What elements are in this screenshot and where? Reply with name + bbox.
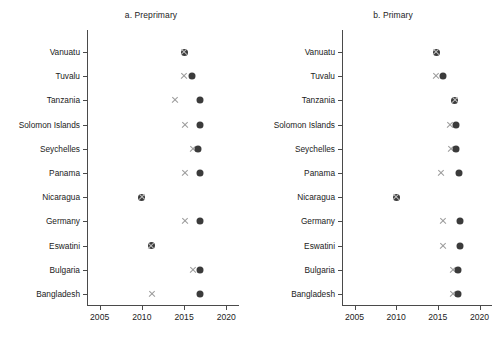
y-axis-tick bbox=[338, 270, 342, 271]
data-point-cross bbox=[138, 193, 146, 201]
x-axis-tick-label: 2015 bbox=[428, 312, 447, 322]
x-axis-tick bbox=[100, 306, 101, 310]
y-axis-category-label: Bulgaria bbox=[305, 265, 335, 275]
plot-area-preprimary: 2005201020152020VanuatuTuvaluTanzaniaSol… bbox=[87, 30, 239, 316]
x-axis-tick-label: 2005 bbox=[345, 312, 364, 322]
x-axis-tick-label: 2010 bbox=[387, 312, 406, 322]
data-point-dot bbox=[188, 73, 195, 80]
y-axis-category-label: Tanzania bbox=[47, 95, 80, 105]
panel-title-b: b. Primary bbox=[247, 10, 495, 20]
y-axis-category-label: Nicaragua bbox=[42, 192, 80, 202]
y-axis-category-label: Vanuatu bbox=[305, 47, 335, 57]
y-axis-category-label: Bangladesh bbox=[36, 289, 80, 299]
x-axis-tick-label: 2020 bbox=[217, 312, 236, 322]
data-point-cross bbox=[181, 217, 189, 225]
y-axis-category-label: Tanzania bbox=[302, 95, 335, 105]
y-axis-tick bbox=[338, 197, 342, 198]
y-axis-tick bbox=[83, 221, 87, 222]
y-axis-tick bbox=[83, 246, 87, 247]
y-axis-tick bbox=[338, 149, 342, 150]
y-axis-tick bbox=[83, 52, 87, 53]
y-axis-category-label: Seychelles bbox=[40, 144, 80, 154]
data-point-dot bbox=[197, 121, 204, 128]
data-point-cross bbox=[392, 193, 400, 201]
data-point-dot bbox=[455, 170, 462, 177]
x-axis-tick-label: 2005 bbox=[90, 312, 109, 322]
panel-title-a: a. Preprimary bbox=[0, 10, 248, 20]
x-axis-tick-label: 2015 bbox=[175, 312, 194, 322]
y-axis-category-label: Germany bbox=[301, 216, 335, 226]
data-point-overlapping bbox=[180, 48, 188, 56]
y-axis-tick bbox=[338, 76, 342, 77]
data-point-dot bbox=[454, 290, 461, 297]
y-axis-category-label: Nicaragua bbox=[297, 192, 335, 202]
x-axis-tick bbox=[396, 306, 397, 310]
y-axis-category-label: Tuvalu bbox=[55, 71, 80, 81]
figure-root: a. Preprimary 2005201020152020VanuatuTuv… bbox=[0, 0, 495, 346]
y-axis-tick bbox=[338, 246, 342, 247]
y-axis-tick bbox=[338, 52, 342, 53]
y-axis-tick bbox=[338, 294, 342, 295]
data-point-overlapping bbox=[451, 96, 459, 104]
x-axis-tick-label: 2010 bbox=[132, 312, 151, 322]
y-axis-category-label: Solomon Islands bbox=[19, 120, 80, 130]
y-axis-category-label: Seychelles bbox=[295, 144, 335, 154]
y-axis-tick bbox=[83, 125, 87, 126]
y-axis-category-label: Vanuatu bbox=[50, 47, 80, 57]
y-axis-tick bbox=[338, 221, 342, 222]
x-axis-line bbox=[87, 305, 239, 306]
y-axis-tick bbox=[83, 270, 87, 271]
y-axis-tick bbox=[83, 100, 87, 101]
data-point-dot bbox=[457, 218, 464, 225]
panel-primary: b. Primary 2005201020152020VanuatuTuvalu… bbox=[247, 0, 495, 346]
data-point-cross bbox=[439, 217, 447, 225]
y-axis-category-label: Panama bbox=[304, 168, 335, 178]
y-axis-tick bbox=[83, 173, 87, 174]
data-point-dot bbox=[197, 266, 204, 273]
y-axis-category-label: Bulgaria bbox=[50, 265, 80, 275]
data-point-cross bbox=[451, 96, 459, 104]
data-point-cross bbox=[147, 242, 155, 250]
y-axis-category-label: Tuvalu bbox=[310, 71, 335, 81]
x-axis-tick bbox=[438, 306, 439, 310]
data-point-cross bbox=[181, 121, 189, 129]
data-point-cross bbox=[180, 48, 188, 56]
data-point-dot bbox=[197, 218, 204, 225]
data-point-cross bbox=[437, 169, 445, 177]
y-axis-tick bbox=[83, 294, 87, 295]
x-axis-tick bbox=[355, 306, 356, 310]
y-axis-tick bbox=[83, 76, 87, 77]
data-point-dot bbox=[197, 170, 204, 177]
y-axis-tick bbox=[338, 100, 342, 101]
y-axis-tick bbox=[83, 197, 87, 198]
data-point-cross bbox=[189, 266, 197, 274]
data-point-cross bbox=[171, 96, 179, 104]
y-axis-category-label: Solomon Islands bbox=[274, 120, 335, 130]
data-point-dot bbox=[453, 145, 460, 152]
data-point-dot bbox=[197, 97, 204, 104]
data-point-cross bbox=[181, 169, 189, 177]
y-axis-tick bbox=[338, 173, 342, 174]
x-axis-tick bbox=[226, 306, 227, 310]
panel-preprimary: a. Preprimary 2005201020152020VanuatuTuv… bbox=[0, 0, 248, 346]
y-axis-category-label: Panama bbox=[49, 168, 80, 178]
data-point-overlapping bbox=[432, 48, 440, 56]
y-axis-category-label: Bangladesh bbox=[291, 289, 335, 299]
x-axis-tick bbox=[480, 306, 481, 310]
y-axis-tick bbox=[338, 125, 342, 126]
y-axis-category-label: Eswatini bbox=[49, 241, 80, 251]
y-axis-line bbox=[342, 30, 343, 306]
data-point-overlapping bbox=[392, 193, 400, 201]
x-axis-tick bbox=[142, 306, 143, 310]
y-axis-category-label: Eswatini bbox=[304, 241, 335, 251]
data-point-cross bbox=[432, 48, 440, 56]
data-point-cross bbox=[148, 290, 156, 298]
y-axis-tick bbox=[83, 149, 87, 150]
x-axis-line bbox=[342, 305, 492, 306]
x-axis-tick-label: 2020 bbox=[470, 312, 489, 322]
data-point-dot bbox=[439, 73, 446, 80]
data-point-dot bbox=[197, 290, 204, 297]
data-point-dot bbox=[194, 145, 201, 152]
data-point-dot bbox=[453, 121, 460, 128]
y-axis-line bbox=[87, 30, 88, 306]
